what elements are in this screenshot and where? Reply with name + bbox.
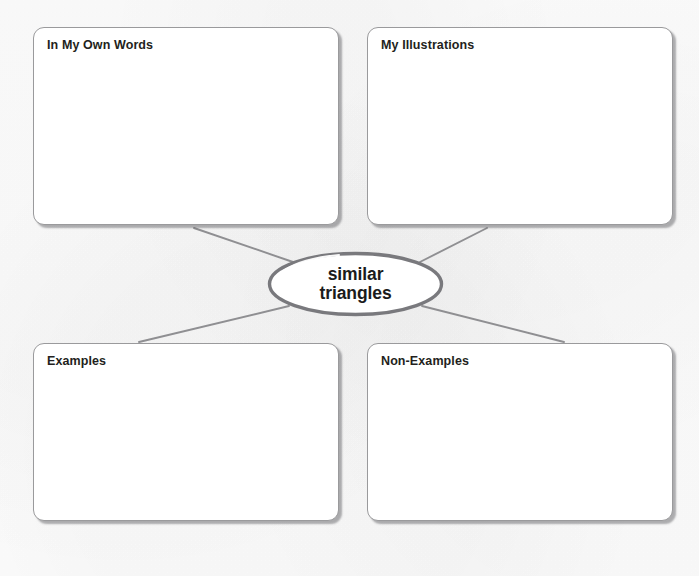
quadrant-box-in-my-own-words[interactable]: In My Own Words bbox=[33, 27, 339, 225]
center-term-node: similar triangles bbox=[267, 251, 444, 317]
center-term-line-1: similar bbox=[328, 265, 384, 284]
quadrant-box-non-examples[interactable]: Non-Examples bbox=[367, 343, 673, 521]
quadrant-box-my-illustrations[interactable]: My Illustrations bbox=[367, 27, 673, 225]
center-term-line-2: triangles bbox=[319, 284, 391, 303]
quadrant-label-in-my-own-words: In My Own Words bbox=[47, 38, 153, 52]
quadrant-label-examples: Examples bbox=[47, 354, 106, 368]
quadrant-label-non-examples: Non-Examples bbox=[381, 354, 469, 368]
worksheet-page: In My Own Words My Illustrations Example… bbox=[0, 0, 699, 576]
quadrant-box-examples[interactable]: Examples bbox=[33, 343, 339, 521]
quadrant-label-my-illustrations: My Illustrations bbox=[381, 38, 474, 52]
center-term-text: similar triangles bbox=[267, 251, 444, 317]
